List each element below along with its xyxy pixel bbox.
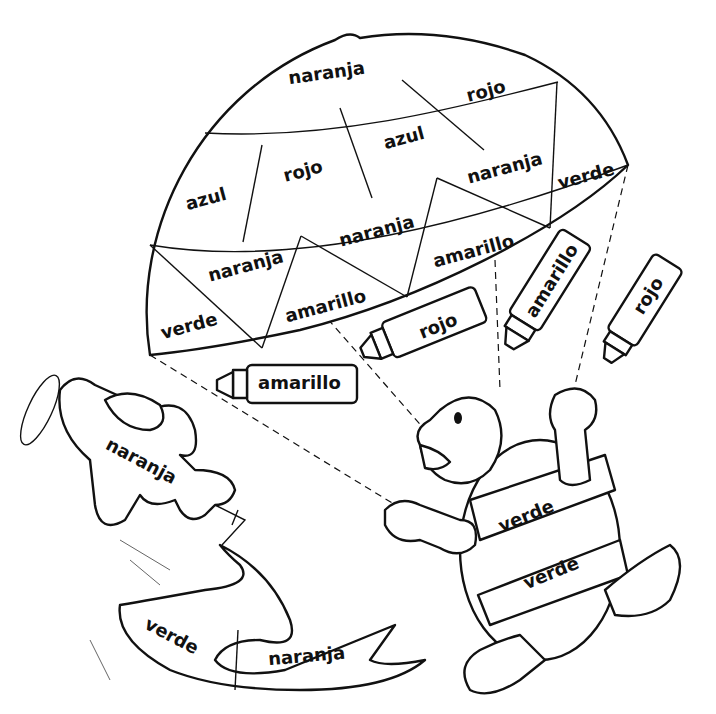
line-art	[0, 0, 716, 714]
crayon-label-amarillo: amarillo	[258, 372, 341, 393]
banner	[90, 540, 425, 690]
coloring-page: naranja rojo azul rojo azul naranja verd…	[0, 0, 716, 714]
turtle	[385, 389, 680, 694]
